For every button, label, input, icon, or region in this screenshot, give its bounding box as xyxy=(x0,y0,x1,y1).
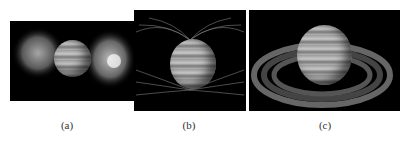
caption-a: (a) xyxy=(47,119,87,131)
jupiter-planet xyxy=(297,25,352,85)
caption-b: (b) xyxy=(169,119,209,131)
caption-c: (c) xyxy=(305,119,345,131)
jupiter-planet xyxy=(54,40,91,77)
panel-a-image xyxy=(10,21,135,101)
panel-b-image xyxy=(134,10,246,111)
panel-c-image xyxy=(249,10,400,111)
jupiter-planet xyxy=(170,39,216,89)
